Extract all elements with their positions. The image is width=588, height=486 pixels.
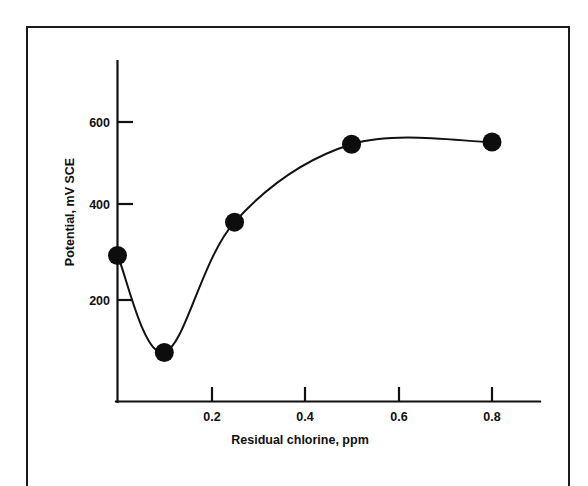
x-axis-title: Residual chlorine, ppm	[231, 433, 369, 447]
y-tick-label-200: 200	[89, 294, 110, 308]
y-tick-label-600: 600	[89, 116, 110, 130]
data-point-markers	[108, 133, 502, 362]
x-tick-label-0.4: 0.4	[296, 410, 313, 424]
y-axis-title: Potential, mV SCE	[63, 158, 77, 266]
y-axis-ticks	[118, 122, 133, 300]
x-axis-ticks	[212, 387, 492, 401]
x-tick-label-0.6: 0.6	[390, 410, 407, 424]
data-point-3	[342, 135, 361, 154]
y-tick-labels: 600 400 200	[89, 116, 110, 308]
x-tick-labels: 0.2 0.4 0.6 0.8	[203, 410, 500, 424]
x-tick-label-0.2: 0.2	[203, 410, 220, 424]
data-point-2	[225, 213, 244, 232]
x-tick-label-0.8: 0.8	[483, 410, 500, 424]
data-point-0	[108, 246, 127, 265]
data-point-4	[483, 133, 502, 152]
data-curve-line	[118, 137, 493, 352]
data-point-1	[155, 343, 174, 362]
y-tick-label-400: 400	[89, 198, 110, 212]
